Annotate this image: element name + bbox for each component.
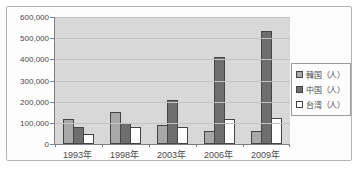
legend-swatch-korea	[296, 71, 303, 78]
gridline	[55, 123, 290, 124]
y-axis-tick	[50, 38, 54, 39]
y-tick-label: 500,000	[20, 34, 49, 43]
plot-area	[54, 17, 290, 145]
y-tick-label: 600,000	[20, 13, 49, 22]
x-axis-tick	[243, 144, 244, 147]
bar-taiwan-1993年	[83, 134, 94, 144]
legend-swatch-taiwan	[296, 101, 303, 108]
legend-item-china: 中国（人）	[296, 84, 346, 95]
x-axis-tick	[102, 144, 103, 147]
x-axis-tick	[196, 144, 197, 147]
legend-swatch-china	[296, 86, 303, 93]
y-axis-tick	[50, 144, 54, 145]
chart-frame: 0100,000200,000300,000400,000500,000600,…	[6, 6, 352, 161]
gridline	[55, 102, 290, 103]
y-axis-tick	[50, 59, 54, 60]
bar-taiwan-2009年	[271, 118, 282, 144]
x-axis-labels: 1993年1998年2003年2006年2009年	[54, 148, 289, 161]
gridline	[55, 38, 290, 39]
y-axis: 0100,000200,000300,000400,000500,000600,…	[7, 17, 49, 144]
y-tick-label: 300,000	[20, 76, 49, 85]
legend-label-korea: 韓国（人）	[306, 69, 345, 80]
y-tick-label: 400,000	[20, 55, 49, 64]
x-axis-tick	[289, 144, 290, 147]
gridline	[55, 81, 290, 82]
x-axis-tick	[55, 144, 56, 147]
legend-item-korea: 韓国（人）	[296, 69, 346, 80]
gridline	[55, 17, 290, 18]
legend-item-taiwan: 台湾（人）	[296, 99, 346, 110]
legend-label-china: 中国（人）	[306, 84, 345, 95]
y-tick-label: 100,000	[20, 118, 49, 127]
legend-label-taiwan: 台湾（人）	[306, 99, 345, 110]
x-tick-label: 2006年	[195, 148, 242, 161]
x-tick-label: 1998年	[101, 148, 148, 161]
y-axis-tick	[50, 102, 54, 103]
bar-taiwan-1998年	[130, 127, 141, 144]
bar-taiwan-2003年	[177, 127, 188, 144]
x-tick-label: 1993年	[54, 148, 101, 161]
x-tick-label: 2003年	[148, 148, 195, 161]
y-tick-label: 0	[45, 140, 49, 149]
y-axis-tick	[50, 81, 54, 82]
gridline	[55, 59, 290, 60]
y-tick-label: 200,000	[20, 97, 49, 106]
legend: 韓国（人）中国（人）台湾（人）	[291, 63, 351, 116]
x-tick-label: 2009年	[242, 148, 289, 161]
y-axis-tick	[50, 17, 54, 18]
x-axis-tick	[149, 144, 150, 147]
y-axis-tick	[50, 123, 54, 124]
